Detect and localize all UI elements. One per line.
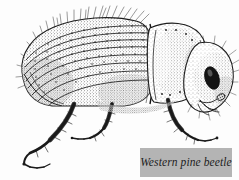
caption-label: Western pine beetle: [140, 157, 232, 169]
beetle-figure: Western pine beetle: [0, 0, 239, 180]
caption-box: Western pine beetle: [140, 148, 232, 177]
